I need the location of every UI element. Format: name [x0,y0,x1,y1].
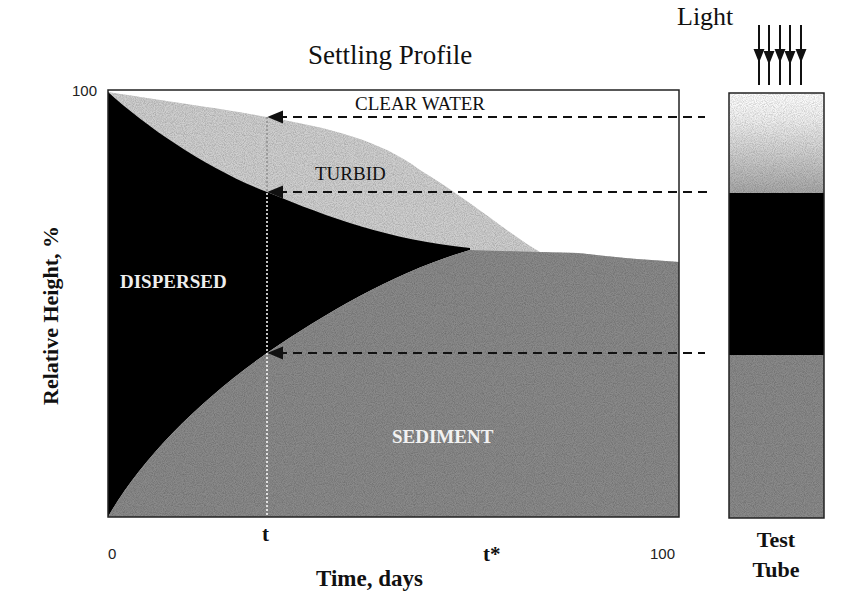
settling-diagram: CLEAR WATER TURBID DISPERSED SEDIMENT [0,0,860,616]
test-tube-label-line2: Tube [726,555,826,585]
y-tick-100: 100 [72,82,97,99]
label-dispersed: DISPERSED [120,271,227,292]
label-turbid: TURBID [315,163,386,184]
label-clear-water: CLEAR WATER [355,93,485,114]
x-axis-label: Time, days [316,566,423,592]
y-axis-label: Relative Height, % [38,226,64,405]
test-tube-label-line1: Test [726,525,826,555]
x-tick-100: 100 [650,545,675,562]
x-tick-0: 0 [108,545,116,562]
plot-area [108,90,679,517]
x-tick-tstar: t* [483,542,501,567]
test-tube-label: Test Tube [726,525,826,585]
light-arrows-icon [755,25,805,85]
test-tube [729,93,824,518]
x-tick-t: t [262,522,269,547]
label-sediment: SEDIMENT [392,426,494,447]
